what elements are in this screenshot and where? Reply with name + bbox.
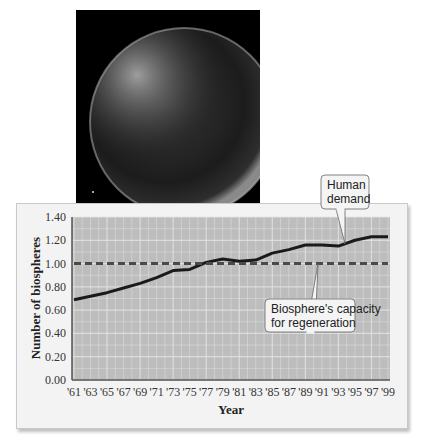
biosphere-chart: 0.000.200.400.600.801.001.201.40 '61'63'…: [0, 0, 421, 441]
callout-text: Human: [327, 178, 366, 192]
y-tick-label: 1.20: [45, 233, 66, 247]
x-tick-label: '99: [381, 385, 395, 399]
y-tick-label: 0.20: [45, 350, 66, 364]
x-tick-label: '95: [348, 385, 362, 399]
y-tick-label: 0.60: [45, 303, 66, 317]
x-tick-label: '73: [166, 385, 180, 399]
x-tick-label: '81: [232, 385, 246, 399]
x-tick-label: '89: [298, 385, 312, 399]
y-tick-label: 1.40: [45, 210, 66, 224]
x-tick-label: '67: [116, 385, 130, 399]
y-tick-label: 0.80: [45, 280, 66, 294]
x-tick-label: '61: [67, 385, 81, 399]
x-tick-label: '83: [249, 385, 263, 399]
y-axis: 0.000.200.400.600.801.001.201.40: [45, 210, 72, 387]
y-tick-label: 0.40: [45, 326, 66, 340]
x-tick-label: '75: [183, 385, 197, 399]
x-tick-label: '77: [199, 385, 213, 399]
x-tick-label: '69: [133, 385, 147, 399]
y-axis-label: Number of biospheres: [28, 237, 43, 359]
y-tick-label: 0.00: [45, 373, 66, 387]
x-tick-label: '97: [364, 385, 378, 399]
x-tick-label: '63: [83, 385, 97, 399]
x-tick-label: '79: [216, 385, 230, 399]
x-tick-label: '71: [150, 385, 164, 399]
x-axis-label: Year: [218, 402, 244, 417]
callout-text: Biosphere's capacity: [271, 302, 381, 316]
x-tick-label: '87: [282, 385, 296, 399]
callout-joint: [337, 208, 345, 211]
callout-text: for regeneration: [271, 316, 356, 330]
x-tick-label: '91: [315, 385, 329, 399]
x-axis: '61'63'65'67'69'71'73'75'77'79'81'83'85'…: [67, 380, 395, 399]
callout-text: demand: [327, 192, 370, 206]
x-tick-label: '65: [100, 385, 114, 399]
x-tick-label: '85: [265, 385, 279, 399]
y-tick-label: 1.00: [45, 257, 66, 271]
callout-joint: [307, 331, 315, 334]
x-tick-label: '93: [331, 385, 345, 399]
